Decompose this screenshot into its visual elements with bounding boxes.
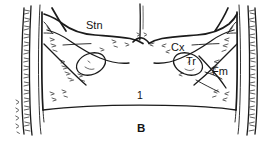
label-number-1: 1 <box>137 89 143 101</box>
label-cx: Cx <box>171 41 185 53</box>
anatomical-line-drawing: Stn Cx Tr Fm 1 B <box>0 0 279 141</box>
label-tr: Tr <box>186 55 196 67</box>
label-panel-b: B <box>137 122 145 134</box>
figure-panel-b: Stn Cx Tr Fm 1 B <box>0 0 279 141</box>
label-fm: Fm <box>212 65 228 77</box>
label-stn: Stn <box>86 19 103 31</box>
